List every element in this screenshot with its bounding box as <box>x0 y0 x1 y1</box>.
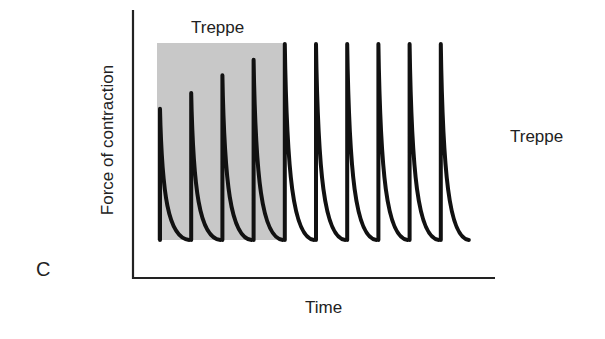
chart-plot <box>0 0 605 339</box>
